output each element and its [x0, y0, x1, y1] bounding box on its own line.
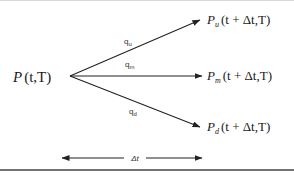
root-node-args: (t,T) — [24, 69, 51, 86]
prob-down-label: qd — [129, 107, 137, 117]
prob-middle-label: qm — [125, 60, 134, 70]
root-node: P(t,T) — [12, 69, 51, 86]
branch-up-arrow — [70, 20, 200, 76]
node-middle: Pm(t + Δt,T) — [206, 68, 272, 85]
prob-up-label: qu — [124, 37, 132, 47]
diagram-canvas: P(t,T) qu qm qd Pu(t + Δt,T) Pm(t + Δt,T… — [0, 0, 294, 175]
time-step-label: Δt — [130, 154, 139, 163]
root-node-base: P — [12, 69, 22, 85]
branch-down-arrow — [70, 76, 200, 127]
node-down: Pd(t + Δt,T) — [206, 119, 270, 136]
node-up: Pu(t + Δt,T) — [206, 12, 270, 29]
